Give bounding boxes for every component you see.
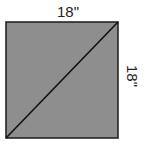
right-dimension-label: 18" [124,65,141,87]
top-dimension-label: 18" [57,3,79,20]
square-diagram: 18" 18" [0,0,153,155]
